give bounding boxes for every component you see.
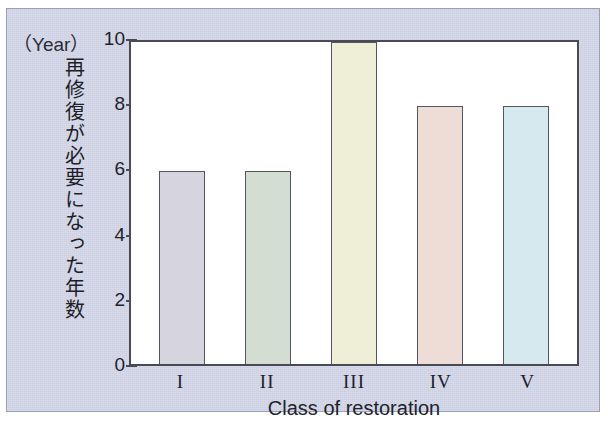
x-tick-label-i: I <box>150 371 210 393</box>
x-tick-label-ii: II <box>237 371 297 393</box>
y-tick-label: 2 <box>114 289 125 311</box>
figure-panel: （Year） 再修復が必要になった年数 0246810 IIIIIIIVV Cl… <box>6 8 600 412</box>
plot-area <box>129 40 579 366</box>
bar-series <box>131 42 577 364</box>
y-axis-unit-label: （Year） <box>13 29 89 56</box>
x-axis-title: Class of restoration <box>129 397 579 420</box>
bar-v <box>503 106 549 364</box>
x-tick-label-v: V <box>498 371 558 393</box>
y-tick-label: 4 <box>114 224 125 246</box>
x-tick-label-iii: III <box>324 371 384 393</box>
y-tick-label: 10 <box>104 28 125 50</box>
x-tick-label-iv: IV <box>411 371 471 393</box>
bar-iii <box>331 42 377 364</box>
bar-ii <box>245 171 291 364</box>
y-axis-title: 再修復が必要になった年数 <box>55 57 85 357</box>
y-tick-label: 0 <box>114 354 125 376</box>
y-tick-label: 8 <box>114 93 125 115</box>
y-tick-label: 6 <box>114 158 125 180</box>
bar-i <box>159 171 205 364</box>
bar-iv <box>417 106 463 364</box>
